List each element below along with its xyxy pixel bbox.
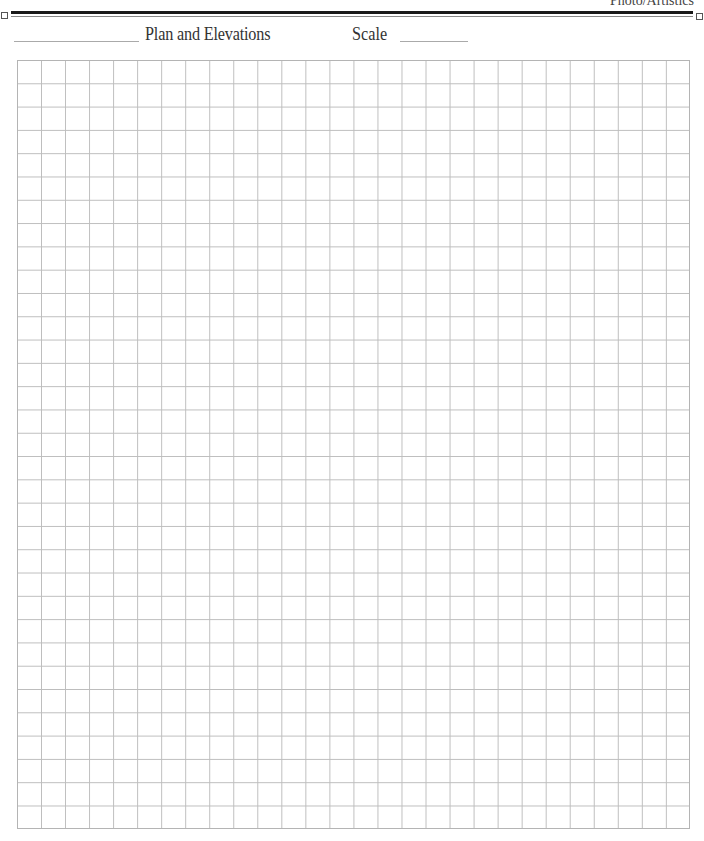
header-rule-thick xyxy=(11,11,693,14)
corner-square-icon xyxy=(1,12,8,19)
brand-text: Photo/Artistics xyxy=(610,0,694,8)
header-rule-thin xyxy=(11,16,693,17)
graph-paper-grid xyxy=(17,60,690,829)
corner-square-icon xyxy=(696,13,703,20)
name-blank-line[interactable] xyxy=(14,41,139,42)
page-title: Plan and Elevations xyxy=(145,24,270,45)
scale-label: Scale xyxy=(352,24,387,45)
scale-blank-line[interactable] xyxy=(400,41,468,42)
title-row: Plan and Elevations Scale xyxy=(0,24,704,48)
